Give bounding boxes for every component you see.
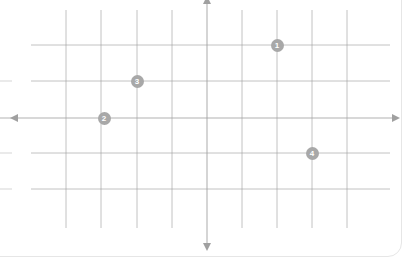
left-edge-grid-stubs (0, 81, 12, 189)
y-axis (203, 0, 211, 251)
x-axis (10, 114, 400, 122)
screenshot-canvas: 1234 (0, 0, 415, 263)
y-axis-arrow-up (203, 0, 211, 4)
point-marker-1[interactable]: 1 (271, 39, 284, 52)
x-axis-arrow-right (392, 114, 400, 122)
x-axis-arrow-left (10, 114, 18, 122)
horizontal-grid-lines (31, 45, 390, 189)
y-axis-arrow-down (203, 243, 211, 251)
coordinate-grid-plot (0, 0, 415, 263)
point-marker-3[interactable]: 3 (131, 75, 144, 88)
point-marker-2[interactable]: 2 (98, 112, 111, 125)
point-marker-4[interactable]: 4 (306, 147, 319, 160)
